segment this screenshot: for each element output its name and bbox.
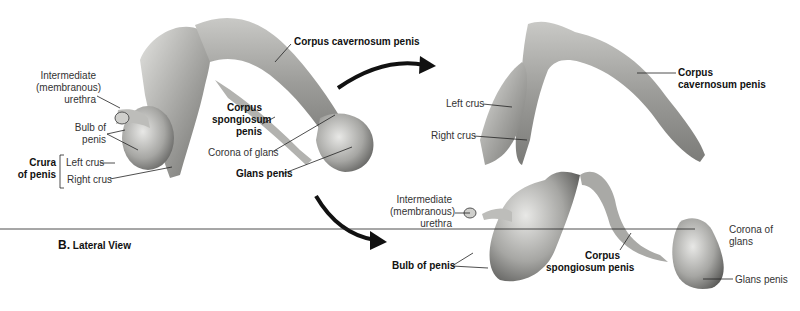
label-corpus-cavernosum-cavernosa: Corpus cavernosum penis xyxy=(678,67,766,91)
label-corpus-spongiosum: Corpus spongiosum penis xyxy=(212,102,262,138)
label-left-crus-cavernosa: Left crus xyxy=(446,98,484,110)
label-corona-of-glans-spongiosum: Corona of glans xyxy=(729,224,773,248)
label-corpus-spongiosum-spongiosum: Corpus spongiosum penis xyxy=(546,250,620,274)
figure-caption: B. Lateral View xyxy=(58,238,131,252)
label-right-crus-cavernosa: Right crus xyxy=(431,130,476,142)
label-crura-of-penis: Crura of penis xyxy=(8,157,56,181)
label-intermediate-urethra-spongiosum: Intermediate (membranous) urethra xyxy=(390,194,452,230)
label-intermediate-urethra: Intermediate (membranous) urethra xyxy=(36,70,96,106)
caption-text: Lateral View xyxy=(73,240,131,251)
label-bulb-of-penis: Bulb of penis xyxy=(60,122,106,146)
label-glans-penis-spongiosum: Glans penis xyxy=(735,274,788,286)
label-left-crus: Left crus xyxy=(66,157,104,169)
anatomy-figure: Intermediate (membranous) urethra Bulb o… xyxy=(0,0,800,311)
caption-letter: B. xyxy=(58,238,70,252)
label-glans-penis: Glans penis xyxy=(236,168,293,180)
label-bulb-of-penis-spongiosum: Bulb of penis xyxy=(392,260,455,272)
corpora-cavernosa-drawing xyxy=(480,22,705,165)
label-right-crus: Right crus xyxy=(67,174,112,186)
label-corpus-cavernosum: Corpus cavernosum penis xyxy=(294,36,420,48)
label-corona-of-glans: Corona of glans xyxy=(208,147,279,159)
